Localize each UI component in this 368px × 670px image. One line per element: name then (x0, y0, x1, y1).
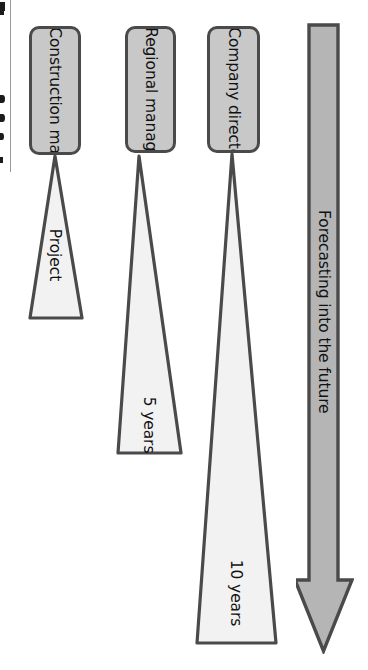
horizon-label-10-years: 10 years (227, 553, 245, 633)
diagram-canvas: Project 5 years 10 years Construction ma… (0, 0, 368, 670)
horizon-label-5-years: 5 years (140, 390, 158, 460)
scan-edge-mark (0, 95, 5, 103)
role-label-company-director: Company director (225, 27, 241, 151)
scan-edge-mark (0, 2, 5, 11)
scan-edge-mark (0, 11, 4, 15)
role-label-regional-manager: Regional manager (142, 27, 158, 151)
horizon-label-project: Project (46, 226, 64, 284)
role-box-construction-manager[interactable]: Construction manager (29, 26, 81, 155)
role-label-construction-manager: Construction manager (47, 27, 63, 153)
scan-edge-mark (0, 114, 5, 122)
forecasting-arrow-label: Forecasting into the future (315, 210, 333, 390)
horizon-cone-project: Project (24, 154, 86, 322)
horizon-cone-10-years: 10 years (192, 152, 280, 647)
scan-edge-rule (10, 0, 11, 172)
horizon-cone-5-years: 5 years (113, 154, 185, 457)
scan-edge-mark (0, 133, 4, 140)
role-box-regional-manager[interactable]: Regional manager (125, 26, 176, 153)
role-box-company-director[interactable]: Company director (207, 26, 260, 153)
forecasting-arrow: Forecasting into the future (296, 23, 354, 654)
scan-edge-mark (0, 157, 3, 163)
